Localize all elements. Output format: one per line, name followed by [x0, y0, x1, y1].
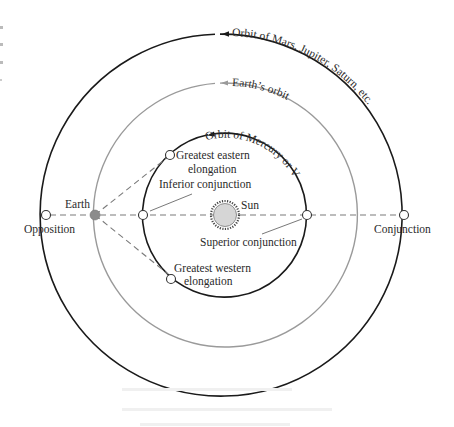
inferior-conjunction-marker [139, 211, 148, 220]
earth-label: Earth [65, 198, 90, 210]
inferior-conjunction-label: Inferior conjunction [159, 178, 252, 191]
left-edge-marks [0, 26, 3, 81]
outer-orbit-label: Orbit of Mars, Jupiter, Saturn, etc. [232, 26, 376, 107]
earth-orbit-arrow-icon [221, 81, 228, 86]
planetary-configurations-diagram: Orbit of Mars, Jupiter, Saturn, etc. Ear… [0, 0, 454, 427]
opposition-label: Opposition [24, 223, 75, 236]
earth-icon [90, 210, 100, 220]
eastern-elongation-marker [166, 151, 175, 160]
inferior-conjunction-leader [150, 194, 192, 211]
outer-orbit-arrow-icon [222, 31, 229, 36]
opposition-marker [42, 211, 51, 220]
bleed-through-text [122, 388, 332, 426]
earth-orbit-label: Earth’s orbit [232, 76, 292, 102]
superior-conjunction-marker [303, 211, 312, 220]
western-elongation-marker [167, 275, 176, 284]
line-to-eastern-elongation [95, 157, 168, 215]
superior-conjunction-leader [262, 219, 302, 234]
sun-label: Sun [241, 199, 259, 211]
line-to-western-elongation [95, 215, 168, 274]
eastern-elongation-label-line1: Greatest eastern [176, 149, 250, 161]
sun-icon [211, 201, 239, 229]
eastern-elongation-label-line2: elongation [188, 163, 237, 176]
conjunction-marker [400, 211, 409, 220]
conjunction-label: Conjunction [374, 223, 431, 236]
superior-conjunction-label: Superior conjunction [200, 236, 297, 249]
western-elongation-label-line2: elongation [184, 275, 233, 288]
western-elongation-label-line1: Greatest western [174, 262, 251, 274]
